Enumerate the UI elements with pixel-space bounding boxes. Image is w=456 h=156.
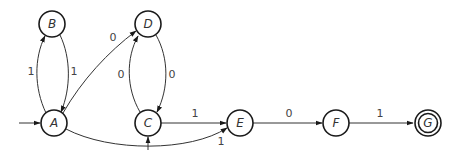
transition-label: 1 [28,65,35,78]
transition-a-b: 1 [28,36,47,113]
transition-arrow [156,35,166,112]
transition-e-f: 0 [253,107,322,124]
state-label: C [144,116,153,130]
state-g: G [415,110,441,136]
state-label: F [333,116,341,130]
state-diagram: 110001101 ABCDEFG [0,0,456,156]
transition-label: 0 [286,107,293,120]
state-c: C [135,110,161,136]
transition-label: 1 [71,65,78,78]
transition-c-d: 0 [118,36,141,112]
state-label: B [48,17,56,31]
transition-label: 1 [192,107,199,120]
state-label: E [236,116,244,130]
state-label: D [143,17,152,31]
transition-label: 1 [218,135,225,148]
transition-label: 0 [110,31,117,44]
state-e: E [227,110,253,136]
transition-f-g: 1 [349,107,413,124]
state-b: B [39,11,65,37]
state-label: A [49,116,58,130]
transition-arrow [37,36,46,113]
state-d: D [135,11,161,37]
state-f: F [323,110,349,136]
transition-arrow [129,36,140,112]
transition-label: 1 [377,107,384,120]
state-label: G [423,116,432,130]
transition-b-a: 1 [60,35,78,112]
state-a: A [41,110,67,136]
transition-d-c: 0 [156,35,176,112]
transition-c-e: 1 [161,107,226,124]
transition-label: 0 [169,68,176,81]
transition-label: 0 [118,68,125,81]
transition-arrow [60,35,68,112]
